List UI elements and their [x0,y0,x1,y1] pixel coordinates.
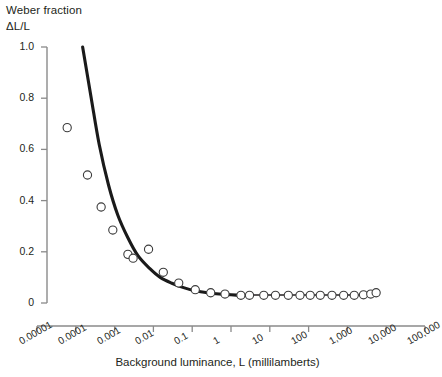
x-tick-marks [37,326,425,332]
data-point [306,291,314,299]
data-point [245,291,253,299]
data-point [144,245,152,253]
y-tick-label: 0 [8,296,34,308]
x-axis-title: Background luminance, L (millilamberts) [0,356,435,368]
data-point [207,289,215,297]
data-point [221,290,229,298]
data-point [175,279,183,287]
data-point [328,291,336,299]
data-point [296,291,304,299]
data-point [63,124,71,132]
data-point [97,203,105,211]
y-tick-label: 1.0 [8,40,34,52]
data-point [109,226,117,234]
data-point [340,291,348,299]
data-point-markers [63,124,380,300]
axes-group [37,47,425,326]
data-point [237,291,245,299]
y-tick-label: 0.6 [8,142,34,154]
data-point [191,286,199,294]
y-tick-label: 0.4 [8,194,34,206]
data-point [260,291,268,299]
data-point [350,291,358,299]
fitted-curve [83,47,245,296]
y-tick-label: 0.8 [8,91,34,103]
data-point [372,289,380,297]
data-point [316,291,324,299]
y-tick-marks [41,47,47,303]
y-tick-label: 0.2 [8,245,34,257]
data-point [271,291,279,299]
data-point [284,291,292,299]
data-point [83,171,91,179]
data-point [129,254,137,262]
data-point [159,268,167,276]
